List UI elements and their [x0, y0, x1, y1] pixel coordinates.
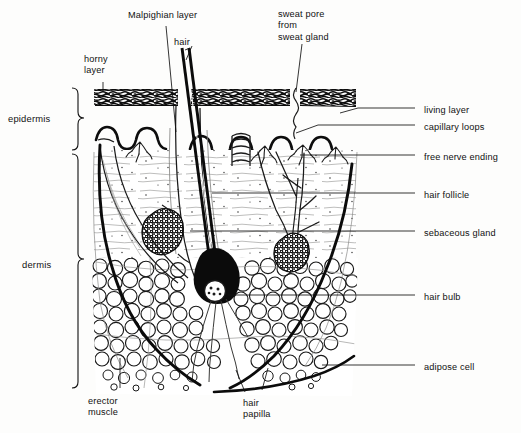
label-sweat-pore: sweat pore from sweat gland: [278, 9, 329, 43]
label-living-layer: living layer: [424, 105, 469, 116]
bracket-label-epidermis: epidermis: [8, 113, 50, 124]
label-erector-muscle: erector muscle: [88, 396, 118, 419]
dermis-body: [94, 150, 358, 265]
skin-cross-section-diagram: epidermis dermis horny layer Malpighian …: [0, 0, 521, 433]
label-malpighian-layer: Malpighian layer: [128, 10, 197, 21]
label-hair: hair: [174, 37, 190, 48]
label-sebaceous-gland: sebaceous gland: [424, 228, 496, 239]
horny-layer-band: [94, 87, 356, 118]
label-adipose-cell: adipose cell: [424, 362, 474, 373]
label-hair-bulb: hair bulb: [424, 292, 461, 303]
bracket-dermis: [72, 154, 84, 388]
hair-papilla-circle: [205, 281, 226, 302]
bracket-label-dermis: dermis: [22, 259, 51, 270]
label-capillary-loops: capillary loops: [424, 122, 484, 133]
label-hair-follicle: hair follicle: [424, 190, 469, 201]
label-free-nerve-ending: free nerve ending: [424, 152, 498, 163]
bracket-epidermis: [72, 88, 84, 150]
label-hair-papilla: hair papilla: [243, 398, 271, 421]
label-horny-layer: horny layer: [84, 54, 108, 77]
